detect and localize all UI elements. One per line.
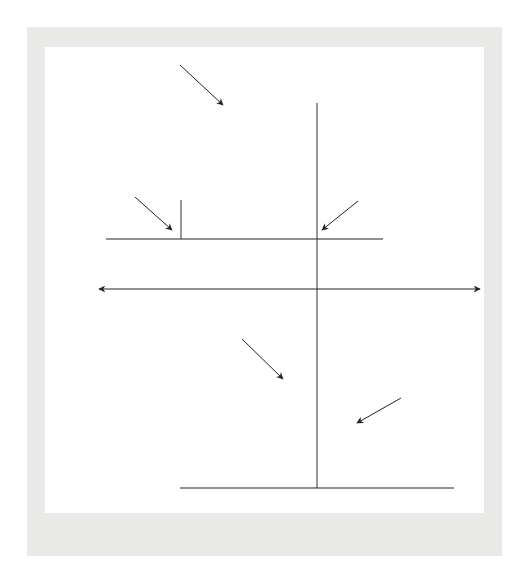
h0-right-tail-arrow bbox=[322, 201, 358, 230]
h0-left-tail-arrow bbox=[135, 197, 172, 230]
h0-title-arrow bbox=[180, 65, 223, 105]
power-figure bbox=[0, 0, 528, 563]
power-arrow bbox=[357, 398, 401, 423]
ha-title-arrow bbox=[242, 339, 283, 379]
figure-caption bbox=[68, 530, 74, 544]
